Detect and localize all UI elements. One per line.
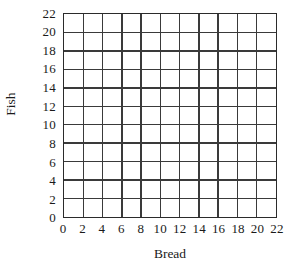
y-tick-label: 4 [0,174,56,187]
y-tick-label: 22 [0,7,56,20]
plot-area [63,13,277,218]
chart-figure: 22 20 18 16 14 12 10 8 6 4 2 0 Fish 0 2 … [0,0,300,274]
grid-lines [64,14,276,217]
x-axis-tick-labels: 0 2 4 6 8 10 12 14 16 18 20 22 [0,222,300,238]
y-tick-label: 6 [0,156,56,169]
y-axis-title: Fish [4,69,18,139]
x-axis-title: Bread [63,247,277,261]
y-tick-label: 2 [0,193,56,206]
x-tick-label: 22 [262,222,292,235]
y-tick-label: 18 [0,44,56,57]
y-tick-label: 20 [0,25,56,38]
